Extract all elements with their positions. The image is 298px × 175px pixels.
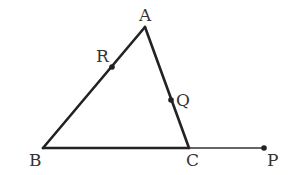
segment-ac — [145, 27, 189, 148]
label-a: A — [138, 5, 152, 25]
label-p: P — [267, 150, 278, 170]
triangle-diagram: A R Q B C P — [0, 0, 298, 175]
label-b: B — [29, 150, 42, 170]
point-r-dot — [109, 64, 115, 70]
point-q-dot — [168, 97, 174, 103]
point-p-dot — [261, 145, 267, 151]
label-r: R — [96, 46, 110, 66]
label-q: Q — [176, 90, 190, 110]
label-c: C — [186, 150, 199, 170]
segment-ab — [43, 27, 145, 148]
